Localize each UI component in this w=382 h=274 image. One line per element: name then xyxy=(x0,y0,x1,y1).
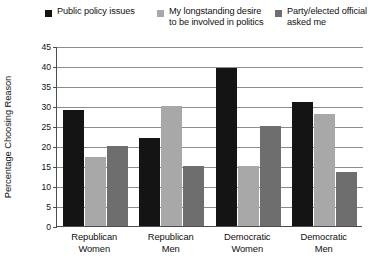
y-axis-tick-label: 20 xyxy=(41,142,51,152)
x-axis-label-line: Republican xyxy=(148,231,194,242)
y-axis-tick-label: 25 xyxy=(41,122,51,132)
x-axis-label-line: Men xyxy=(315,243,333,254)
legend-swatch-series-2 xyxy=(274,9,283,18)
x-axis-label-line: Men xyxy=(162,243,180,254)
y-axis-tick-label: 45 xyxy=(41,42,51,52)
bar-group xyxy=(134,46,211,226)
bar xyxy=(336,172,357,226)
bar xyxy=(292,102,313,226)
legend-label-series-1: My longstanding desire to be involved in… xyxy=(169,6,263,28)
y-axis-tick-label: 15 xyxy=(41,162,51,172)
legend-label-line1: Party/elected official xyxy=(287,6,367,16)
x-axis-label-line: Democratic xyxy=(301,231,347,242)
y-axis-tick-label: 0 xyxy=(46,222,51,232)
chart-legend: Public policy issues My longstanding des… xyxy=(44,6,374,40)
y-axis-tick-label: 10 xyxy=(41,182,51,192)
legend-label-line1: Public policy issues xyxy=(57,6,135,16)
legend-item-party-official-asked: Party/elected official asked me xyxy=(274,6,374,28)
legend-swatch-series-1 xyxy=(156,9,165,18)
y-axis-tick-label: 5 xyxy=(46,202,51,212)
x-axis-label-line: Republican xyxy=(71,231,117,242)
x-axis-label-line: Women xyxy=(78,243,110,254)
y-axis-tick-label: 40 xyxy=(41,62,51,72)
x-axis-label: DemocraticMen xyxy=(286,231,363,261)
legend-label-series-2: Party/elected official asked me xyxy=(287,6,367,28)
y-axis-tick xyxy=(53,227,57,228)
bar xyxy=(238,166,259,226)
bar xyxy=(107,146,128,226)
legend-label-line2: to be involved in politics xyxy=(169,17,263,27)
x-axis-label: DemocraticWomen xyxy=(209,231,286,261)
plot-area: 051015202530354045 xyxy=(56,47,362,227)
x-axis-label: RepublicanWomen xyxy=(56,231,133,261)
x-axis-label-line: Democratic xyxy=(224,231,270,242)
legend-label-line1: My longstanding desire xyxy=(169,6,261,16)
bar-group xyxy=(287,46,364,226)
bar-groups xyxy=(57,46,363,226)
x-axis-label-line: Women xyxy=(231,243,263,254)
bar xyxy=(63,110,84,226)
bar xyxy=(161,106,182,226)
y-axis-title: Percentage Choosing Reason xyxy=(2,47,14,227)
x-axis-labels: RepublicanWomenRepublicanMenDemocraticWo… xyxy=(56,231,362,261)
y-axis-tick-label: 30 xyxy=(41,102,51,112)
bar xyxy=(260,126,281,226)
bar xyxy=(183,166,204,226)
bar xyxy=(216,68,237,226)
legend-item-public-policy-issues: Public policy issues xyxy=(44,6,156,18)
legend-label-line2: asked me xyxy=(287,17,326,27)
bar-group xyxy=(210,46,287,226)
legend-swatch-series-0 xyxy=(44,9,53,18)
legend-item-longstanding-desire: My longstanding desire to be involved in… xyxy=(156,6,274,28)
bar xyxy=(139,138,160,226)
bar-group xyxy=(57,46,134,226)
bar xyxy=(85,157,106,226)
bar-chart: Public policy issues My longstanding des… xyxy=(0,0,382,274)
legend-label-series-0: Public policy issues xyxy=(57,6,135,17)
y-axis-tick-label: 35 xyxy=(41,82,51,92)
x-axis-label: RepublicanMen xyxy=(133,231,210,261)
bar xyxy=(314,114,335,226)
